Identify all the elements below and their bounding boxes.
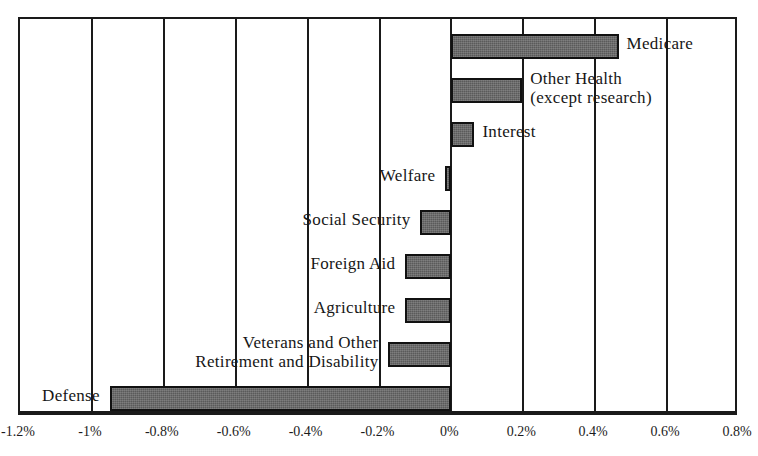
category-label-veterans-retirement-disability: Veterans and OtherRetirement and Disabil… [195,333,378,371]
category-label-defense: Defense [42,386,100,405]
category-label-agriculture: Agriculture [314,298,396,317]
bar-medicare [451,34,618,59]
category-label-other-health: Other Health(except research) [530,69,652,107]
category-label-foreign-aid: Foreign Aid [310,254,395,273]
x-tick-label: -0.8% [122,424,202,440]
category-label-line: Veterans and Other [195,333,378,352]
bar-interest [451,122,474,147]
category-label-line: Retirement and Disability [195,352,378,371]
category-label-line: Foreign Aid [310,254,395,273]
x-tick-label: -0.6% [194,424,274,440]
x-tick-label: 0% [409,424,489,440]
bar-other-health [451,78,522,103]
x-tick-label: -0.4% [266,424,346,440]
gridline-neg0p8 [163,19,165,411]
gridline-0p2 [522,19,524,411]
category-label-welfare: Welfare [380,166,435,185]
category-label-line: Medicare [627,34,694,53]
bar-veterans-retirement-disability [388,342,451,367]
x-tick-label: 0.8% [697,424,758,440]
bar-social-security [420,210,451,235]
category-label-line: Agriculture [314,298,396,317]
gridline-0p6 [666,19,668,411]
category-label-social-security: Social Security [303,210,411,229]
bar-foreign-aid [405,254,451,279]
category-label-line: Other Health [530,69,652,88]
gridline-neg1 [91,19,93,411]
category-label-line: (except research) [530,88,652,107]
category-label-interest: Interest [482,122,535,141]
bar-agriculture [405,298,451,323]
category-label-line: Social Security [303,210,411,229]
category-label-medicare: Medicare [627,34,694,53]
x-axis-line [18,413,737,415]
x-tick-label: 0.4% [553,424,633,440]
bar-defense [110,386,452,411]
bar-welfare [445,166,451,191]
category-label-line: Defense [42,386,100,405]
x-tick-label: 0.2% [481,424,561,440]
horizontal-bar-chart: MedicareOther Health(except research)Int… [0,0,758,456]
x-tick-label: 0.6% [625,424,705,440]
x-tick-label: -1% [50,424,130,440]
x-tick-label: -0.2% [338,424,418,440]
category-label-line: Welfare [380,166,435,185]
category-label-line: Interest [482,122,535,141]
